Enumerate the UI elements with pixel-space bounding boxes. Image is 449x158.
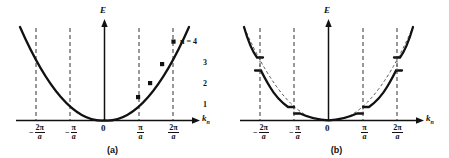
x-axis-label-a: kn [202, 113, 210, 125]
tick-b-1-den: a [295, 133, 301, 141]
origin-label-b: 0 [325, 123, 330, 133]
level-label-n4: n = 4 [180, 37, 197, 46]
state-marker-n4 [171, 40, 175, 44]
tick-b-1-sign: − [289, 129, 294, 137]
y-axis-arrowhead-b [325, 19, 331, 27]
x-axis-label-b-sub: n [431, 119, 434, 125]
tick-label-b-minus-pi-a: −πa [281, 124, 309, 142]
tick-label-a-2pi-a: 2πa [160, 124, 186, 142]
level-label-n3: 3 [203, 58, 207, 67]
tick-a-0-sign: − [29, 129, 34, 137]
band-2-negative [255, 71, 294, 108]
y-axis-label-b: E [324, 5, 330, 15]
y-axis-label-a: E [100, 5, 106, 15]
tick-a-1-fraction: πa [71, 124, 77, 142]
tick-label-b-2pi-a: 2πa [384, 124, 410, 142]
x-axis-arrowhead-b [416, 117, 424, 123]
tick-b-0-fraction: 2πa [259, 124, 269, 142]
y-axis-arrowhead [101, 19, 107, 27]
tick-a-1-den: a [71, 133, 77, 141]
origin-label-a: 0 [101, 123, 106, 133]
panel-a: E kn 0 −2πa −πa πa 2πa n = 4 3 2 1 (a) [0, 0, 225, 158]
tick-b-2-den: a [361, 133, 367, 141]
tick-label-a-minus-pi-a: −πa [57, 124, 85, 142]
band-2-positive [363, 71, 402, 108]
tick-b-3-den: a [392, 133, 402, 141]
tick-a-0-den: a [35, 133, 45, 141]
tick-b-3-fraction: 2πa [392, 124, 402, 142]
x-axis-label-a-sub: n [207, 119, 210, 125]
panel-a-caption: (a) [0, 145, 225, 155]
tick-label-b-minus-2pi-a: −2πa [246, 124, 276, 142]
tick-a-3-fraction: 2πa [168, 124, 178, 142]
level-label-n2: 2 [203, 79, 207, 88]
state-markers [136, 40, 176, 100]
tick-label-a-minus-2pi-a: −2πa [22, 124, 52, 142]
tick-a-2-den: a [137, 133, 143, 141]
x-axis-arrowhead [192, 117, 200, 123]
tick-b-1-fraction: πa [295, 124, 301, 142]
tick-b-0-sign: − [253, 129, 258, 137]
state-marker-n3 [160, 62, 164, 66]
y-axis-b [325, 19, 331, 121]
level-label-n1: 1 [203, 100, 207, 109]
state-marker-n2 [148, 81, 152, 85]
tick-a-3-den: a [168, 133, 178, 141]
figure-container: E kn 0 −2πa −πa πa 2πa n = 4 3 2 1 (a) [0, 0, 449, 158]
tick-a-0-fraction: 2πa [35, 124, 45, 142]
panel-b: E kn 0 −2πa −πa πa 2πa (b) [224, 0, 449, 158]
y-axis [101, 19, 107, 121]
tick-label-a-pi-a: πa [128, 124, 152, 142]
tick-label-b-pi-a: πa [352, 124, 376, 142]
panel-b-caption: (b) [224, 145, 449, 155]
tick-b-0-den: a [259, 133, 269, 141]
tick-a-1-sign: − [65, 129, 70, 137]
tick-b-2-fraction: πa [361, 124, 367, 142]
state-marker-n1 [136, 95, 140, 99]
x-axis-label-b: kn [426, 113, 434, 125]
tick-a-2-fraction: πa [137, 124, 143, 142]
